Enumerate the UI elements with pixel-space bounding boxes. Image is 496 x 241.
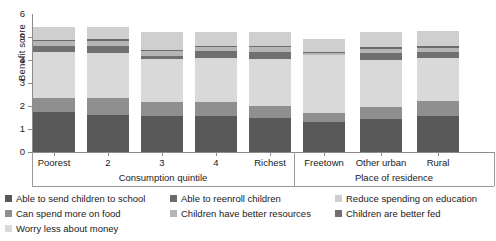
legend-label: Reduce spending on education (346, 193, 477, 204)
legend-item[interactable]: Able to reenroll children (170, 193, 281, 204)
group-separator (494, 152, 495, 186)
x-axis-tick-mark (162, 152, 163, 156)
legend-label: Able to reenroll children (181, 193, 281, 204)
y-axis-tick-mark (28, 37, 32, 38)
bar-segment (360, 119, 402, 152)
y-axis-tick: 2 (2, 100, 32, 112)
x-axis-tick-mark (54, 152, 55, 156)
bar-segment (87, 115, 129, 152)
y-axis-tick-label: 1 (7, 123, 25, 135)
legend-item[interactable]: Can spend more on food (5, 208, 121, 219)
group-title: Place of residence (355, 172, 433, 183)
bar-segment (360, 60, 402, 107)
bar-other-urban (360, 32, 402, 152)
x-axis-tick-mark (381, 152, 382, 156)
y-axis-tick: 3 (2, 77, 32, 89)
bar-poorest (33, 27, 75, 152)
legend-item[interactable]: Reduce spending on education (335, 193, 477, 204)
legend-item[interactable]: Children have better resources (170, 208, 311, 219)
group-rule (32, 186, 494, 187)
legend-label: Worry less about money (16, 223, 118, 234)
bar-segment (33, 112, 75, 152)
y-axis-tick-mark (28, 106, 32, 107)
y-axis-tick: 5 (2, 31, 32, 43)
x-axis-tick-label: 3 (159, 157, 164, 168)
x-axis-tick-label: Poorest (38, 157, 71, 168)
group-title: Consumption quintile (119, 172, 208, 183)
bar-segment (303, 122, 345, 152)
bar-segment (33, 98, 75, 112)
bar-segment (141, 102, 183, 116)
bar-segment (195, 58, 237, 102)
y-axis-tick-label: 5 (7, 31, 25, 43)
bar-segment (303, 55, 345, 113)
bar-2 (87, 27, 129, 152)
legend-item[interactable]: Worry less about money (5, 223, 118, 234)
bar-segment (360, 107, 402, 119)
y-axis-tick-mark (28, 129, 32, 130)
group-separator (32, 152, 33, 186)
bar-segment (87, 53, 129, 99)
x-axis-tick-label: 4 (213, 157, 218, 168)
legend-item[interactable]: Children are better fed (335, 208, 441, 219)
legend-swatch-icon (335, 195, 342, 202)
y-axis-tick: 1 (2, 123, 32, 135)
bar-segment (141, 32, 183, 49)
x-axis-labels: Poorest234RichestFreetownOther urbanRura… (32, 152, 494, 172)
y-axis-tick-label: 4 (7, 54, 25, 66)
group-separator (294, 152, 295, 186)
bar-rural (417, 31, 459, 152)
bar-segment (249, 118, 291, 153)
x-axis-tick-label: Richest (254, 157, 286, 168)
plot-area: 0123456 (32, 14, 494, 152)
y-axis-tick-label: 3 (7, 77, 25, 89)
chart-legend: Able to send children to schoolAble to r… (5, 193, 491, 239)
bar-richest (249, 32, 291, 152)
legend-swatch-icon (170, 210, 177, 217)
bar-segment (249, 59, 291, 106)
bar-segment (195, 116, 237, 152)
x-axis-tick-label: Freetown (304, 157, 344, 168)
x-axis-tick-label: Other urban (356, 157, 407, 168)
bar-segment (141, 116, 183, 152)
bar-segment (249, 106, 291, 117)
legend-swatch-icon (170, 195, 177, 202)
bar-segment (360, 53, 402, 60)
x-axis-tick-label: Rural (427, 157, 450, 168)
y-axis-tick: 4 (2, 54, 32, 66)
bar-segment (87, 98, 129, 115)
legend-swatch-icon (5, 225, 12, 232)
legend-item[interactable]: Able to send children to school (5, 193, 145, 204)
bar-segment (87, 46, 129, 53)
bar-segment (303, 39, 345, 52)
bar-segment (33, 52, 75, 98)
y-axis-tick: 6 (2, 8, 32, 20)
x-axis-tick-label: 2 (105, 157, 110, 168)
bar-segment (87, 27, 129, 39)
x-axis-tick-mark (324, 152, 325, 156)
x-axis-tick-mark (270, 152, 271, 156)
bar-segment (249, 32, 291, 46)
bar-segment (195, 51, 237, 58)
bar-segment (249, 52, 291, 60)
legend-label: Children are better fed (346, 208, 441, 219)
bar-4 (195, 32, 237, 152)
bar-segment (360, 32, 402, 47)
y-axis-tick-label: 2 (7, 100, 25, 112)
legend-swatch-icon (5, 195, 12, 202)
y-axis-tick-mark (28, 83, 32, 84)
legend-label: Able to send children to school (16, 193, 145, 204)
bar-3 (141, 32, 183, 152)
bar-segment (417, 31, 459, 46)
bar-freetown (303, 39, 345, 152)
y-axis-tick-mark (28, 60, 32, 61)
bar-segment (195, 32, 237, 45)
bar-segment (417, 101, 459, 117)
legend-swatch-icon (335, 210, 342, 217)
x-axis-tick-mark (108, 152, 109, 156)
bar-segment (33, 27, 75, 40)
bar-segment (141, 59, 183, 102)
bar-segment (195, 102, 237, 116)
y-axis-tick-label: 6 (7, 8, 25, 20)
bar-segment (417, 58, 459, 101)
